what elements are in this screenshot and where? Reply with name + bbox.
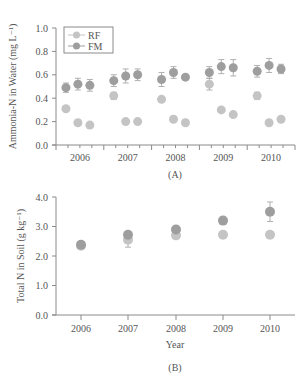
x-tick-label: 2010 xyxy=(260,323,280,334)
data-point-rf xyxy=(121,117,130,126)
data-point-rf xyxy=(61,104,70,113)
data-point-fm xyxy=(253,67,262,76)
data-point-rf xyxy=(277,115,286,124)
data-point-fm xyxy=(76,240,86,250)
data-point-fm xyxy=(123,230,133,240)
legend-marker-rf xyxy=(73,32,80,39)
data-point-rf xyxy=(229,110,238,119)
data-point-rf xyxy=(157,95,166,104)
x-tick-label: 2009 xyxy=(213,152,233,163)
data-point-rf xyxy=(133,117,142,126)
x-tick-label: 2008 xyxy=(166,323,186,334)
y-axis-title: Total N in Soil (g kg⁻¹) xyxy=(15,209,27,303)
x-tick-label: 2006 xyxy=(70,152,90,163)
y-axis-title: Ammonia-N in Water (mg L⁻¹) xyxy=(7,24,19,150)
data-point-fm xyxy=(218,216,228,226)
x-tick-label: 2009 xyxy=(213,323,233,334)
y-tick-label: 3.0 xyxy=(36,221,49,232)
data-point-rf xyxy=(265,230,275,240)
y-tick-label: 0.2 xyxy=(36,116,49,127)
y-tick-label: 4.0 xyxy=(36,192,49,203)
legend: RFFM xyxy=(64,27,113,53)
data-point-fm xyxy=(61,83,70,92)
caption-b: (B) xyxy=(168,362,181,374)
data-point-rf xyxy=(253,91,262,100)
data-point-fm xyxy=(169,68,178,77)
data-point-fm xyxy=(229,63,238,72)
y-tick-label: 1.0 xyxy=(36,23,49,34)
x-tick-label: 2010 xyxy=(261,152,281,163)
x-tick-label: 2007 xyxy=(118,152,138,163)
x-tick-label: 2006 xyxy=(71,323,91,334)
y-tick-label: 1.0 xyxy=(36,280,49,291)
data-point-fm xyxy=(265,207,275,217)
data-point-rf xyxy=(181,118,190,127)
data-point-fm xyxy=(121,71,130,80)
data-point-rf xyxy=(109,91,118,100)
data-point-fm xyxy=(277,64,286,73)
data-point-rf xyxy=(73,118,82,127)
data-point-fm xyxy=(109,76,118,85)
y-tick-label: 0.8 xyxy=(36,46,49,57)
chart-b-total-n-in-soil: 0.01.02.03.04.020062007200820092010YearT… xyxy=(15,192,295,351)
data-point-rf xyxy=(265,118,274,127)
y-tick-label: 0.4 xyxy=(36,93,49,104)
data-point-fm xyxy=(157,75,166,84)
data-point-fm xyxy=(205,68,214,77)
data-point-fm xyxy=(85,81,94,90)
y-tick-label: 2.0 xyxy=(36,251,49,262)
y-tick-label: 0.0 xyxy=(36,140,49,151)
caption-a: (A) xyxy=(168,169,182,181)
figure: 0.00.20.40.60.81.020062007200820092010Am… xyxy=(0,0,308,388)
data-point-rf xyxy=(217,105,226,114)
data-point-rf xyxy=(205,80,214,89)
data-point-fm xyxy=(217,62,226,71)
data-point-rf xyxy=(218,230,228,240)
legend-label-fm: FM xyxy=(88,41,103,52)
legend-marker-fm xyxy=(73,43,80,50)
x-tick-label: 2008 xyxy=(166,152,186,163)
data-point-fm xyxy=(265,61,274,70)
data-point-rf xyxy=(169,115,178,124)
x-tick-label: 2007 xyxy=(118,323,138,334)
y-tick-label: 0.6 xyxy=(36,69,49,80)
legend-label-rf: RF xyxy=(88,30,101,41)
data-point-fm xyxy=(171,224,181,234)
y-tick-label: 0.0 xyxy=(36,310,49,321)
data-point-rf xyxy=(85,121,94,130)
x-axis-title: Year xyxy=(166,339,185,350)
data-point-fm xyxy=(133,70,142,79)
data-point-fm xyxy=(73,80,82,89)
data-point-fm xyxy=(181,73,190,82)
chart-a-ammonia-n-in-water: 0.00.20.40.60.81.020062007200820092010Am… xyxy=(7,23,295,164)
